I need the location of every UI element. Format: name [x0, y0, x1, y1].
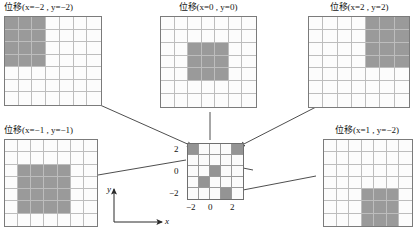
- grid-top-center-cell-r7-c1: [161, 94, 175, 107]
- grid-bottom-right-cell-r6-c4: [362, 201, 375, 213]
- grid-top-center-cell-r7-c3: [188, 94, 202, 107]
- grid-top-left-cell-r2-c4: [46, 30, 60, 43]
- grid-top-center-cell-r6-c7: [242, 81, 256, 94]
- grid-top-right-cell-r7-c1: [309, 94, 323, 107]
- grid-top-right-cell-r4-c4: [352, 56, 366, 69]
- x-tick-2: 2: [230, 203, 235, 212]
- grid-top-left-cell-r3-c4: [46, 42, 60, 55]
- grid-bottom-left-cell-r3-c7: [84, 165, 97, 177]
- grid-top-right-cell-r1-c2: [323, 17, 337, 30]
- panel-title-top-right: 位移(x=2 , y=2): [306, 2, 412, 13]
- grid-bottom-left-cell-r6-c1: [5, 201, 18, 213]
- grid-top-right-cell-r4-c2: [323, 56, 337, 69]
- grid-bottom-right-cell-r4-c3: [349, 177, 362, 189]
- y-tick-2: 2: [174, 145, 179, 154]
- grid-top-center-cell-r6-c5: [215, 81, 229, 94]
- grid-top-right-cell-r2-c1: [309, 30, 323, 43]
- panel-top-left: 位移(x=−2 , y=−2): [4, 2, 102, 106]
- grid-bottom-right-cell-r3-c5: [374, 165, 387, 177]
- grid-top-right-cell-r1-c5: [366, 17, 380, 30]
- grid-top-center-cell-r1-c6: [229, 17, 243, 30]
- grid-top-right-cell-r2-c3: [338, 30, 352, 43]
- grid-bottom-right-cell-r4-c1: [324, 177, 337, 189]
- grid-bottom-right-cell-r1-c1: [324, 140, 337, 152]
- grid-top-left-cell-r4-c1: [5, 55, 19, 68]
- grid-top-left-cell-r5-c5: [60, 67, 74, 80]
- grid-bottom-right-cell-r7-c2: [337, 214, 350, 226]
- grid-center-cell-r1-c1: [188, 144, 199, 155]
- grid-top-right-cell-r5-c7: [395, 68, 409, 81]
- panel-top-right: 位移(x=2 , y=2): [306, 2, 412, 108]
- panel-title-bottom-left: 位移(x=−1 , y=−1): [4, 125, 98, 136]
- panel-title-top-center: 位移(x=0 , y=0): [152, 2, 264, 13]
- grid-bottom-left-cell-r6-c5: [58, 201, 71, 213]
- grid-top-left-cell-r3-c3: [32, 42, 46, 55]
- grid-bottom-left-cell-r4-c4: [44, 177, 57, 189]
- grid-bottom-right-cell-r3-c4: [362, 165, 375, 177]
- grid-bottom-right-cell-r1-c2: [337, 140, 350, 152]
- grid-center-cell-r5-c4: [221, 188, 232, 199]
- grid-top-left-cell-r5-c6: [74, 67, 88, 80]
- grid-top-center-cell-r2-c5: [215, 30, 229, 43]
- grid-top-right-cell-r4-c1: [309, 56, 323, 69]
- grid-top-left-cell-r1-c6: [74, 17, 88, 30]
- grid-top-center-cell-r1-c1: [161, 17, 175, 30]
- grid-top-right-cell-r2-c7: [395, 30, 409, 43]
- panel-title-bottom-right: 位移(x=1 , y=−2): [320, 125, 414, 136]
- grid-bottom-left-cell-r7-c7: [84, 214, 97, 226]
- grid-bottom-left-cell-r4-c1: [5, 177, 18, 189]
- grid-bottom-left-cell-r6-c6: [71, 201, 84, 213]
- grid-center-cell-r3-c1: [188, 166, 199, 177]
- grid-top-left-cell-r5-c1: [5, 67, 19, 80]
- grid-top-right-cell-r7-c5: [366, 94, 380, 107]
- grid-top-center-cell-r6-c2: [175, 81, 189, 94]
- connector-center-stub: [243, 168, 253, 170]
- grid-bottom-right-cell-r2-c5: [374, 152, 387, 164]
- grid-bottom-right-cell-r7-c6: [387, 214, 400, 226]
- grid-top-left-cell-r1-c3: [32, 17, 46, 30]
- y-tick-0: 0: [174, 167, 179, 176]
- grid-bottom-right: [323, 139, 413, 227]
- grid-top-right-cell-r6-c7: [395, 81, 409, 94]
- grid-bottom-right-cell-r5-c4: [362, 189, 375, 201]
- grid-top-left-cell-r5-c4: [46, 67, 60, 80]
- grid-top-right-cell-r6-c6: [380, 81, 394, 94]
- grid-top-right-cell-r5-c4: [352, 68, 366, 81]
- figure-canvas: 位移(x=−2 , y=−2) 位移(x=0 , y=0) 位移(x=2 , y…: [0, 0, 415, 241]
- y-tick-neg2: −2: [169, 189, 179, 198]
- grid-bottom-left-cell-r2-c7: [84, 152, 97, 164]
- grid-top-center-cell-r5-c1: [161, 68, 175, 81]
- grid-center-cell-r3-c3: [210, 166, 221, 177]
- grid-bottom-left-cell-r1-c2: [18, 140, 31, 152]
- grid-bottom-right-cell-r2-c2: [337, 152, 350, 164]
- grid-bottom-left-cell-r1-c1: [5, 140, 18, 152]
- grid-center-cell-r3-c4: [221, 166, 232, 177]
- grid-top-center-cell-r3-c2: [175, 43, 189, 56]
- grid-bottom-right-cell-r4-c2: [337, 177, 350, 189]
- grid-top-left-cell-r2-c5: [60, 30, 74, 43]
- grid-top-center-cell-r5-c3: [188, 68, 202, 81]
- grid-top-right-cell-r2-c5: [366, 30, 380, 43]
- grid-top-center-cell-r2-c1: [161, 30, 175, 43]
- grid-bottom-left-cell-r7-c5: [58, 214, 71, 226]
- grid-bottom-right-cell-r7-c3: [349, 214, 362, 226]
- grid-bottom-right-cell-r1-c5: [374, 140, 387, 152]
- grid-top-left-cell-r4-c4: [46, 55, 60, 68]
- grid-top-center-cell-r5-c2: [175, 68, 189, 81]
- grid-top-left-cell-r6-c5: [60, 80, 74, 93]
- grid-top-right-cell-r1-c6: [380, 17, 394, 30]
- grid-top-center-cell-r2-c3: [188, 30, 202, 43]
- grid-bottom-left-cell-r3-c3: [31, 165, 44, 177]
- grid-bottom-left-cell-r4-c7: [84, 177, 97, 189]
- grid-top-left-cell-r3-c2: [19, 42, 33, 55]
- grid-top-right-cell-r1-c7: [395, 17, 409, 30]
- grid-bottom-right-cell-r1-c3: [349, 140, 362, 152]
- grid-top-right-cell-r2-c6: [380, 30, 394, 43]
- grid-bottom-left-cell-r2-c5: [58, 152, 71, 164]
- grid-top-left-cell-r1-c7: [87, 17, 101, 30]
- axis-key-y-label: y: [107, 184, 111, 194]
- grid-top-left-cell-r6-c6: [74, 80, 88, 93]
- grid-bottom-right-cell-r2-c7: [399, 152, 412, 164]
- grid-top-center-cell-r6-c6: [229, 81, 243, 94]
- grid-top-right-cell-r6-c2: [323, 81, 337, 94]
